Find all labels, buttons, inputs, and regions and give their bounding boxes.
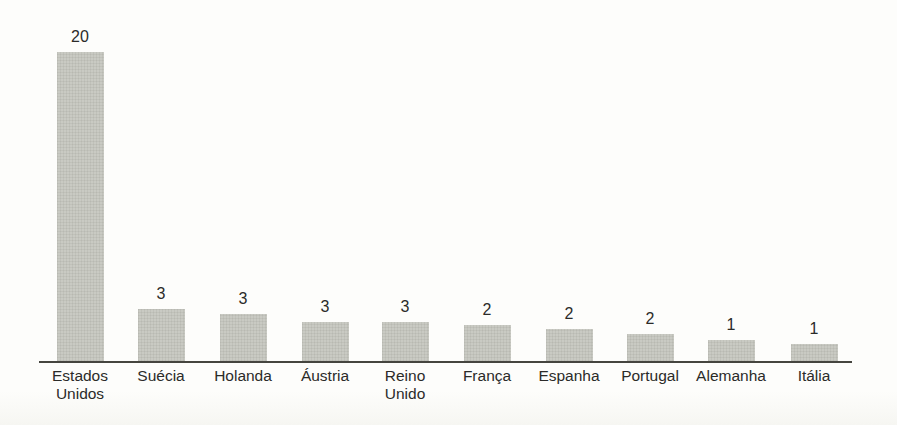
bar (627, 334, 674, 361)
x-tick-label-line: Unido (357, 385, 453, 403)
bar-value-label: 2 (539, 304, 599, 324)
bar (382, 322, 429, 361)
x-tick-label: Alemanha (683, 367, 779, 385)
bar (57, 52, 104, 361)
bar (708, 340, 755, 361)
bar (138, 309, 185, 361)
x-tick-label-line: Alemanha (683, 367, 779, 385)
bar-value-label: 1 (701, 315, 761, 335)
bar-value-label: 3 (213, 289, 273, 309)
x-tick-label: Itália (766, 367, 862, 385)
x-tick-label-line: Unidos (32, 385, 128, 403)
bar-value-label: 3 (375, 297, 435, 317)
bar-value-label: 2 (620, 309, 680, 329)
bar (464, 325, 511, 361)
bar-value-label: 3 (131, 284, 191, 304)
x-axis-line (39, 361, 852, 363)
bar-value-label: 1 (784, 319, 844, 339)
bar-value-label: 3 (295, 297, 355, 317)
bar (546, 329, 593, 361)
bar-value-label: 20 (50, 27, 110, 47)
x-tick-label-line: Itália (766, 367, 862, 385)
bar (220, 314, 267, 361)
bar-value-label: 2 (457, 300, 517, 320)
bar (302, 322, 349, 361)
bar (791, 344, 838, 361)
bar-chart: 20EstadosUnidos3Suécia3Holanda3Áustria3R… (0, 0, 897, 425)
